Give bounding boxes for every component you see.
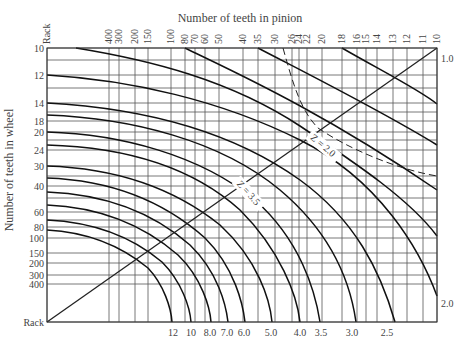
right-ratio-labels: 1.02.0 [441,53,454,309]
ratio-label: 4.0 [294,327,307,338]
pinion-tick-label: 12 [401,34,412,44]
pinion-tick-label: 50 [213,34,224,44]
pinion-tick-label: 300 [113,29,124,44]
ratio-label: 10 [186,327,196,338]
wheel-tick-label: 20 [34,127,44,138]
wheel-tick-label: 100 [29,233,44,244]
wheel-tick-labels: 10121418202430406080100150200300400Rack [23,43,44,328]
pinion-tick-label: 22 [301,34,312,44]
pinion-tick-label: 150 [142,29,153,44]
bottom-ratio-labels: 12108.07.06.05.04.03.53.02.5 [168,327,393,338]
wheel-tick-label: Rack [23,317,44,328]
pinion-tick-labels: Rack400300200150100807060504035302624222… [41,23,442,44]
contact-ratio-nomogram: Rack400300200150100807060504035302624222… [0,0,473,354]
wheel-axis-title: Number of teeth in wheel [2,108,16,231]
ratio-label: 1.0 [441,53,454,64]
ratio-label: 7.0 [221,327,234,338]
contact-ratio-curve [258,48,437,145]
pinion-tick-label: 40 [237,34,248,44]
ratio-label: 5.0 [265,327,278,338]
wheel-tick-label: 10 [34,43,44,54]
wheel-tick-label: 60 [34,207,44,218]
ratio-label: 12 [168,327,178,338]
wheel-tick-label: 200 [29,258,44,269]
wheel-tick-label: 24 [34,145,44,156]
ratio-label: 2.5 [381,327,394,338]
wheel-tick-label: 40 [34,181,44,192]
pinion-tick-label: 100 [165,29,176,44]
wheel-tick-label: 12 [34,70,44,81]
pinion-tick-label: 60 [199,34,210,44]
ratio-label: 2.0 [441,298,454,309]
ratio-label: 8.0 [204,327,217,338]
pinion-tick-label: 15 [360,34,371,44]
wheel-tick-label: 400 [29,279,44,290]
ratio-label: 3.0 [346,327,359,338]
pinion-tick-label: 18 [336,34,347,44]
pinion-tick-label: Rack [41,23,52,44]
pinion-tick-label: 30 [269,34,280,44]
wheel-tick-label: 18 [34,116,44,127]
wheel-tick-label: 14 [34,98,44,109]
contact-ratio-curve [47,115,356,322]
ratio-label: 6.0 [238,327,251,338]
z-label: Z = 2.0 [309,132,338,159]
pinion-tick-label: 11 [417,34,428,44]
wheel-tick-label: 80 [34,222,44,233]
pinion-tick-label: 200 [129,29,140,44]
nomogram-canvas: Rack400300200150100807060504035302624222… [0,0,473,354]
contact-ratio-curve [185,48,437,190]
pinion-tick-label: 10 [431,34,442,44]
ratio-label: 3.5 [315,327,328,338]
pinion-tick-label: 20 [316,34,327,44]
wheel-tick-label: 30 [34,161,44,172]
pinion-tick-label: 14 [371,34,382,44]
pinion-tick-label: 13 [387,34,398,44]
pinion-tick-label: 35 [252,34,263,44]
pinion-axis-title: Number of teeth in pinion [178,11,303,25]
